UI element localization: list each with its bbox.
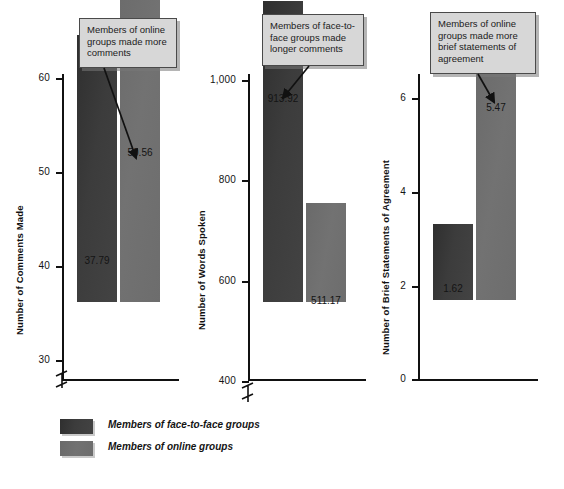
callout-arrow-comments	[100, 66, 160, 170]
legend-item-online: Members of online groups	[60, 440, 390, 462]
y-tick-label-30-comments: 30	[16, 354, 50, 365]
y-tick-4-brief	[412, 192, 419, 194]
y-tick-2-brief	[412, 286, 419, 288]
bar-value-face-to-face-brief: 1.62	[426, 283, 480, 294]
callout-brief: Members of online groups made more brief…	[430, 12, 536, 74]
axis-break-mark-words	[241, 378, 255, 404]
y-tick-800-words	[242, 180, 249, 182]
y-tick-label-600-words: 600	[192, 275, 236, 286]
figure-canvas: Number of Comments Made 60 50 40 30 37.7…	[0, 0, 564, 489]
callout-arrow-brief	[476, 72, 516, 114]
legend-label-online: Members of online groups	[108, 441, 233, 452]
legend-swatch-online	[60, 441, 93, 456]
y-tick-0-brief	[412, 379, 419, 381]
y-tick-label-4-brief: 4	[380, 186, 406, 197]
y-tick-6-brief	[412, 98, 419, 100]
bar-online-words	[306, 203, 346, 302]
y-tick-40-comments	[56, 266, 63, 268]
y-tick-label-50-comments: 50	[16, 166, 50, 177]
legend-swatch-face-to-face	[60, 419, 93, 434]
y-axis-line-brief	[418, 74, 420, 381]
y-tick-label-400-words: 400	[192, 375, 236, 386]
legend-item-face-to-face: Members of face-to-face groups	[60, 418, 390, 440]
y-axis-line-comments	[62, 74, 64, 381]
x-axis-line-comments	[62, 379, 179, 381]
y-tick-label-0-brief: 0	[380, 373, 406, 384]
axis-break-mark-comments	[55, 362, 69, 388]
y-tick-label-800-words: 800	[192, 174, 236, 185]
callout-words: Members of face-to-face groups made long…	[262, 14, 364, 66]
chart-panel-words: Number of Words Spoken 1,000 800 600 400…	[180, 0, 370, 410]
chart-panel-comments: Number of Comments Made 60 50 40 30 37.7…	[0, 0, 188, 410]
y-axis-title-words: Number of Words Spoken	[196, 210, 207, 330]
chart-panel-brief: Number of Brief Statements of Agreement …	[368, 0, 564, 410]
y-tick-600-words	[242, 281, 249, 283]
y-axis-line-words	[248, 74, 250, 381]
legend: Members of face-to-face groups Members o…	[60, 418, 390, 462]
callout-comments: Members of online groups made more comme…	[79, 18, 177, 68]
y-tick-label-60-comments: 60	[16, 72, 50, 83]
bar-value-online-words: 511.17	[297, 295, 355, 306]
y-tick-label-40-comments: 40	[16, 260, 50, 271]
x-axis-line-brief	[418, 379, 538, 381]
y-tick-label-2-brief: 2	[380, 280, 406, 291]
y-tick-1000-words	[242, 80, 249, 82]
x-axis-line-words	[248, 379, 366, 381]
legend-label-face-to-face: Members of face-to-face groups	[108, 419, 260, 430]
y-tick-label-1000-words: 1,000	[192, 74, 236, 85]
y-tick-50-comments	[56, 172, 63, 174]
y-tick-60-comments	[56, 78, 63, 80]
bar-value-face-to-face-comments: 37.79	[70, 255, 124, 266]
callout-arrow-words	[275, 64, 325, 108]
y-tick-label-6-brief: 6	[380, 92, 406, 103]
